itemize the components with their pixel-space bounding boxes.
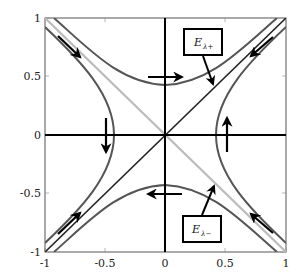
y-tick: -1 [30, 246, 41, 259]
label-subscript: λ− [200, 230, 211, 238]
x-tick: 0.5 [216, 257, 234, 270]
x-tick: -1 [40, 257, 51, 270]
y-tick-labels: 1 0.5 0 -0.5 -1 [20, 12, 41, 259]
y-tick: 0 [34, 129, 41, 142]
x-tick: 0 [162, 257, 169, 270]
label-text: E [191, 223, 200, 236]
y-tick: 1 [34, 12, 41, 25]
label-box [184, 29, 222, 55]
label-text: E [193, 36, 202, 49]
x-tick: 1 [283, 257, 290, 270]
label-box [183, 216, 221, 242]
label-subscript: λ+ [202, 43, 213, 51]
y-tick: 0.5 [24, 70, 42, 83]
x-tick: -0.5 [94, 257, 115, 270]
arrow-icon [251, 37, 273, 56]
y-tick: -0.5 [20, 187, 41, 200]
phase-portrait: -1 -0.5 0 0.5 1 1 0.5 0 -0.5 -1 [0, 0, 304, 279]
x-tick-labels: -1 -0.5 0 0.5 1 [40, 257, 290, 270]
